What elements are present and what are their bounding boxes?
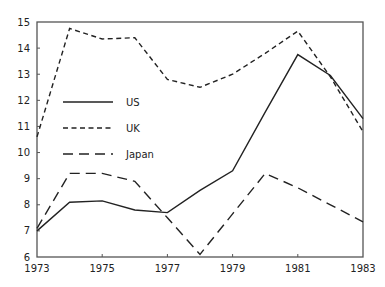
- y-tick-label: 11: [17, 121, 30, 132]
- x-tick-label: 1983: [350, 263, 375, 274]
- x-tick-label: 1979: [220, 263, 245, 274]
- x-tick-label: 1973: [24, 263, 49, 274]
- y-tick-label: 15: [17, 17, 30, 28]
- plot-frame: [37, 22, 363, 257]
- legend-label-us: US: [126, 97, 140, 108]
- y-tick-label: 12: [17, 95, 30, 106]
- y-tick-label: 8: [24, 199, 30, 210]
- legend: USUKJapan: [63, 97, 154, 160]
- y-tick-label: 9: [24, 173, 30, 184]
- legend-label-japan: Japan: [125, 149, 154, 160]
- x-tick-label: 1975: [89, 263, 114, 274]
- y-tick-label: 10: [17, 147, 30, 158]
- y-tick-label: 13: [17, 69, 30, 80]
- legend-label-uk: UK: [126, 123, 140, 134]
- x-tick-label: 1977: [155, 263, 180, 274]
- y-tick-label: 7: [24, 225, 30, 236]
- x-tick-label: 1981: [285, 263, 310, 274]
- series-line-uk: [37, 29, 363, 137]
- series-line-us: [37, 55, 363, 231]
- y-tick-label: 6: [24, 252, 30, 263]
- line-chart: 6789101112131415 19731975197719791981198…: [0, 0, 385, 287]
- series-layer: [37, 29, 363, 255]
- y-tick-label: 14: [17, 43, 30, 54]
- series-line-japan: [37, 173, 363, 254]
